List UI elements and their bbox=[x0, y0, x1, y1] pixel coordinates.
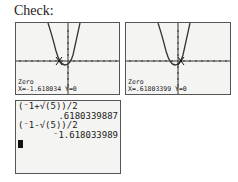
graph-screen-2: Zero X=.61803399 Y=0 bbox=[125, 22, 231, 95]
blinking-cursor-icon bbox=[18, 140, 23, 148]
graph-screen-1: Zero X=-1.618034 Y=0 bbox=[15, 22, 120, 95]
x-label: X= bbox=[128, 85, 136, 93]
x-value: -1.618034 bbox=[26, 85, 61, 93]
x-value: .61803399 bbox=[136, 85, 171, 93]
graph-status-1: Zero X=-1.618034 Y=0 bbox=[18, 79, 77, 93]
result-2: ⁻1.618033989 bbox=[18, 131, 118, 141]
check-heading: Check: bbox=[14, 3, 54, 19]
y-value: Y=0 bbox=[175, 85, 187, 93]
x-label: X= bbox=[18, 85, 26, 93]
y-value: Y=0 bbox=[65, 85, 77, 93]
home-screen: (⁻1+√(5))/2 .6180339887 (⁻1-√(5))/2 ⁻1.6… bbox=[15, 100, 121, 174]
graph-status-2: Zero X=.61803399 Y=0 bbox=[128, 79, 187, 93]
